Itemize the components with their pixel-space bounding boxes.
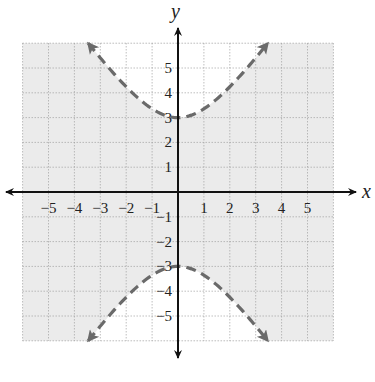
hyperbola-inequality-graph: −5−4−3−2−112345−5−4−3−2−112345 x y [0, 0, 375, 382]
y-tick-label: −4 [156, 283, 172, 299]
x-tick-label: −4 [66, 200, 82, 216]
y-tick-label: 5 [165, 60, 173, 76]
y-tick-label: −3 [156, 258, 172, 274]
x-tick-label: 4 [278, 200, 286, 216]
x-tick-label: 3 [252, 200, 260, 216]
x-tick-label: 5 [304, 200, 312, 216]
y-tick-label: −2 [156, 234, 172, 250]
y-tick-label: 4 [165, 85, 173, 101]
y-tick-label: 1 [165, 159, 173, 175]
y-tick-label: −1 [156, 209, 172, 225]
x-tick-label: −5 [41, 200, 57, 216]
x-tick-label: −2 [118, 200, 134, 216]
x-tick-label: 1 [200, 200, 208, 216]
y-tick-label: 2 [165, 134, 173, 150]
x-tick-label: −3 [92, 200, 108, 216]
y-axis-label: y [169, 0, 180, 23]
x-axis-label: x [361, 180, 371, 202]
y-tick-label: 3 [165, 110, 173, 126]
y-tick-label: −5 [156, 308, 172, 324]
x-tick-label: 2 [226, 200, 234, 216]
